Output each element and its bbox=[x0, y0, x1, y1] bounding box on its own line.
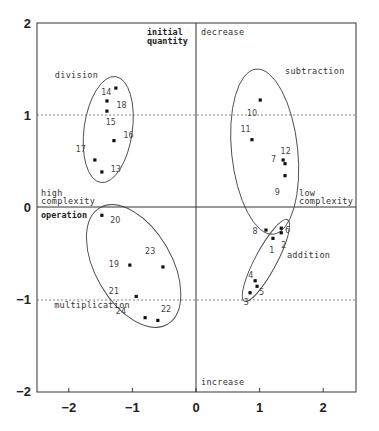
multiplication-group-label: multiplication bbox=[54, 300, 130, 310]
y-tick-label: 2 bbox=[24, 16, 31, 31]
data-point-7 bbox=[282, 158, 285, 161]
data-point-17 bbox=[93, 158, 96, 161]
point-label-5: 5 bbox=[259, 288, 264, 297]
point-label-19: 19 bbox=[109, 260, 119, 269]
point-label-20: 20 bbox=[110, 216, 120, 225]
data-point-8 bbox=[264, 228, 267, 231]
addition-group-label: addition bbox=[287, 250, 330, 260]
point-label-18: 18 bbox=[117, 101, 127, 110]
division-group-label: division bbox=[55, 70, 98, 80]
data-point-6 bbox=[280, 227, 283, 230]
data-point-22 bbox=[156, 319, 159, 322]
data-point-1 bbox=[271, 237, 274, 240]
initial-quantity-label-line2: quantity bbox=[147, 36, 188, 46]
x-tick-label: 1 bbox=[256, 400, 263, 415]
y-tick-label: 0 bbox=[24, 200, 31, 215]
data-point-2 bbox=[280, 231, 283, 234]
subtraction-ellipse bbox=[223, 66, 306, 238]
data-point-3 bbox=[248, 291, 251, 294]
point-label-6: 6 bbox=[285, 226, 290, 235]
point-label-13: 13 bbox=[111, 165, 121, 174]
data-point-4 bbox=[254, 279, 257, 282]
x-tick-label: 2 bbox=[320, 400, 327, 415]
operation-label: operation bbox=[41, 210, 87, 220]
scatter-plot: −2−1012210−1−2 1234567891011121314151617… bbox=[0, 0, 379, 431]
high-complexity-label-line2: complexity bbox=[41, 196, 95, 206]
point-labels: 123456789101112131415161718192021222324 bbox=[76, 88, 291, 316]
x-tick-label: 0 bbox=[192, 400, 199, 415]
data-point-12 bbox=[283, 162, 286, 165]
point-label-4: 4 bbox=[248, 271, 253, 280]
x-tick-label: −2 bbox=[61, 400, 76, 415]
increase-label: increase bbox=[201, 377, 244, 387]
data-point-15 bbox=[105, 110, 108, 113]
point-label-15: 15 bbox=[106, 118, 116, 127]
data-point-16 bbox=[112, 139, 115, 142]
low-complexity-label-line2: complexity bbox=[299, 196, 353, 206]
point-label-21: 21 bbox=[109, 287, 119, 296]
data-point-11 bbox=[250, 138, 253, 141]
point-label-7: 7 bbox=[271, 155, 276, 164]
point-label-23: 23 bbox=[145, 247, 155, 256]
point-label-1: 1 bbox=[269, 246, 274, 255]
point-label-14: 14 bbox=[101, 88, 111, 97]
point-label-22: 22 bbox=[161, 305, 171, 314]
point-label-17: 17 bbox=[76, 145, 86, 154]
data-point-23 bbox=[161, 265, 164, 268]
data-point-18 bbox=[105, 99, 108, 102]
point-label-9: 9 bbox=[275, 188, 280, 197]
point-label-11: 11 bbox=[241, 125, 251, 134]
data-point-20 bbox=[100, 214, 103, 217]
point-label-8: 8 bbox=[253, 227, 258, 236]
point-label-10: 10 bbox=[247, 109, 257, 118]
data-point-24 bbox=[144, 316, 147, 319]
data-point-21 bbox=[135, 295, 138, 298]
point-label-2: 2 bbox=[281, 241, 286, 250]
data-points bbox=[93, 86, 286, 322]
point-label-16: 16 bbox=[123, 131, 133, 140]
x-tick-label: −1 bbox=[125, 400, 140, 415]
y-tick-label: −2 bbox=[16, 384, 31, 399]
decrease-label: decrease bbox=[201, 27, 244, 37]
data-point-19 bbox=[128, 263, 131, 266]
data-point-13 bbox=[100, 170, 103, 173]
subtraction-group-label: subtraction bbox=[285, 66, 345, 76]
point-label-3: 3 bbox=[244, 298, 249, 307]
data-point-9 bbox=[283, 174, 286, 177]
data-point-14 bbox=[114, 86, 117, 89]
point-label-12: 12 bbox=[281, 147, 291, 156]
y-tick-label: 1 bbox=[24, 108, 31, 123]
data-point-10 bbox=[259, 98, 262, 101]
y-tick-label: −1 bbox=[16, 292, 31, 307]
